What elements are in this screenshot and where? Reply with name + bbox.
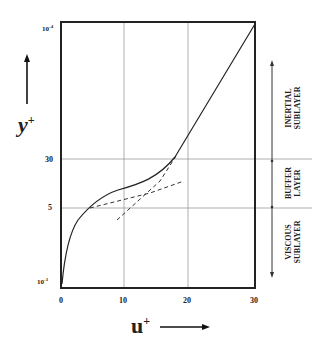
x-tick-0: 0 bbox=[59, 296, 63, 305]
bracket-tick-30 bbox=[271, 160, 274, 163]
y-tick-30: 30 bbox=[45, 155, 53, 164]
y-tick-5: 5 bbox=[48, 203, 52, 212]
x-arrow-head-icon bbox=[202, 324, 210, 330]
x-tick-30: 30 bbox=[250, 296, 258, 305]
x-axis-title: u+ bbox=[131, 313, 150, 339]
bracket-top-arrow-icon bbox=[270, 60, 274, 66]
region-viscous-sublayer: VISCOUSSUBLAYER bbox=[284, 212, 304, 272]
plot-frame bbox=[61, 22, 255, 288]
y-tick-top: 10-4 bbox=[42, 24, 53, 33]
y-tick-bottom: 10-1 bbox=[37, 277, 48, 286]
y-axis-title: y+ bbox=[18, 112, 35, 138]
log-law-dashed bbox=[90, 181, 184, 208]
region-inertial-sublayer: INERTIALSUBLAYER bbox=[284, 78, 304, 138]
bracket-tick-5 bbox=[271, 206, 274, 209]
bracket-bottom-arrow-icon bbox=[270, 272, 274, 278]
x-tick-10: 10 bbox=[119, 296, 127, 305]
region-buffer-layer: BUFFERLAYER bbox=[284, 163, 304, 203]
velocity-profile-curve bbox=[62, 24, 255, 284]
x-tick-20: 20 bbox=[183, 296, 191, 305]
plot-canvas bbox=[0, 0, 328, 345]
y-arrow-head-icon bbox=[24, 54, 30, 62]
